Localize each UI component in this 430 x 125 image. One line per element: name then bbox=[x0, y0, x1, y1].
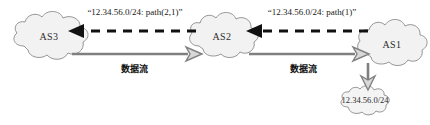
data-arrow-as2-to-as1 bbox=[249, 47, 369, 61]
advert-arrow-as1-to-as2 bbox=[246, 24, 368, 38]
node-as1: AS1 bbox=[358, 19, 428, 65]
data-label-as2-to-as1: 数据流 bbox=[290, 63, 317, 74]
data-label-as3-to-as2: 数据流 bbox=[121, 63, 148, 74]
data-arrow-as3-to-as2 bbox=[72, 47, 202, 61]
node-label-subnet: 12.34.56.0/24 bbox=[342, 95, 390, 105]
data-arrowhead-as3-to-as2 bbox=[186, 47, 202, 61]
advert-label-as2-to-as3: “12.34.56.0/24: path(2,1)” bbox=[87, 7, 182, 17]
node-label-as1: AS1 bbox=[383, 39, 402, 50]
delivery-arrow-as1-to-subnet bbox=[361, 63, 375, 90]
node-label-as2: AS2 bbox=[213, 31, 232, 42]
bgp-path-advertisement-figure: AS3 AS2 AS1 12.34.56.0/24 “12.34.56.0/24… bbox=[0, 0, 430, 125]
node-subnet: 12.34.56.0/24 bbox=[341, 86, 389, 115]
node-as2: AS2 bbox=[190, 12, 259, 57]
node-as3: AS3 bbox=[14, 11, 88, 59]
node-label-as3: AS3 bbox=[40, 31, 59, 42]
advert-label-as1-to-as2: “12.34.56.0/24: path(1)” bbox=[268, 7, 356, 17]
